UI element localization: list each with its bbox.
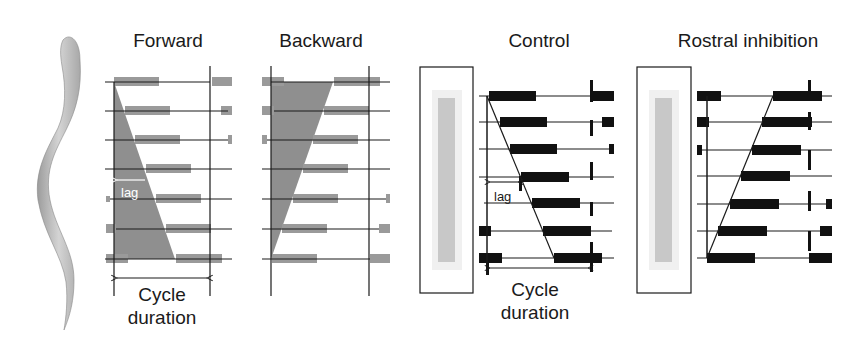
diagram-canvas: lag — [0, 0, 866, 346]
control-panel: lag — [420, 67, 614, 293]
rostral-spinal-cord-fill — [655, 98, 672, 262]
control-spinal-cord-fill — [438, 98, 455, 262]
backward-panel — [262, 66, 390, 296]
forward-panel: lag — [105, 66, 232, 296]
rostral-inhibition-panel — [637, 67, 832, 293]
lamprey-body-icon — [37, 37, 80, 330]
rostral-burst-bars — [697, 80, 832, 263]
control-lag-label: lag — [494, 189, 511, 204]
forward-lag-label: lag — [121, 185, 138, 200]
